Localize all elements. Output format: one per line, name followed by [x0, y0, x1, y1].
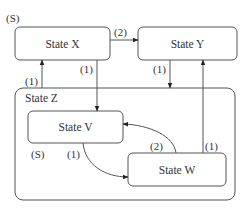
transition-w-to-v: (2) [123, 124, 176, 153]
transition-v-to-w-label: (1) [67, 148, 80, 161]
state-y[interactable]: State Y [138, 27, 237, 60]
transition-y-to-z-label: (1) [153, 63, 166, 76]
transition-x-to-v-label: (1) [80, 63, 93, 76]
transition-x-to-y-label: (2) [114, 26, 127, 39]
transition-w-to-y-label: (1) [205, 140, 218, 153]
state-v[interactable]: State V [28, 111, 123, 143]
state-x[interactable]: State X [15, 27, 110, 60]
state-w-label: State W [159, 164, 196, 176]
state-diagram: (S) State X State Y State Z State V (S) … [0, 0, 247, 210]
state-w[interactable]: State W [128, 153, 226, 186]
transition-x-to-v: (1) [80, 60, 97, 111]
transition-x-to-y: (2) [110, 26, 138, 40]
state-z-label: State Z [25, 92, 58, 104]
state-x-label: State X [45, 38, 80, 50]
transition-w-to-v-label: (2) [150, 140, 163, 153]
start-marker-x: (S) [6, 12, 20, 25]
start-marker-v: (S) [31, 148, 45, 161]
transition-z-to-x: (1) [25, 60, 42, 88]
transition-z-to-x-label: (1) [25, 75, 38, 88]
transition-v-to-w: (1) [67, 143, 128, 177]
state-y-label: State Y [171, 38, 205, 50]
state-v-label: State V [59, 121, 94, 133]
transition-y-to-z: (1) [153, 60, 170, 88]
transition-w-to-y: (1) [203, 60, 218, 153]
